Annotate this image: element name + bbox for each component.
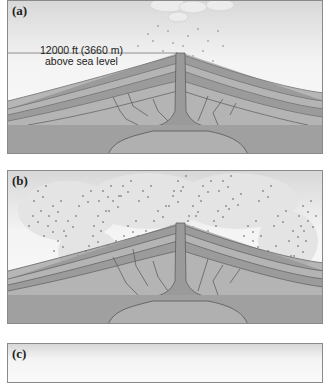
volcano-cross-section-a bbox=[8, 1, 323, 154]
panel-label-c: (c) bbox=[12, 346, 26, 362]
volcano-cross-section-b bbox=[8, 171, 323, 324]
panel-c: (c) bbox=[7, 343, 323, 383]
panel-b: (b) bbox=[7, 170, 323, 324]
elevation-line-2: above sea level bbox=[40, 56, 123, 67]
elevation-annotation: 12000 ft (3660 m) above sea level bbox=[40, 45, 123, 67]
panel-label-b: (b) bbox=[12, 173, 28, 189]
panel-a: (a) 12000 ft (3660 m) above sea level bbox=[7, 0, 323, 154]
panel-label-a: (a) bbox=[12, 3, 27, 19]
